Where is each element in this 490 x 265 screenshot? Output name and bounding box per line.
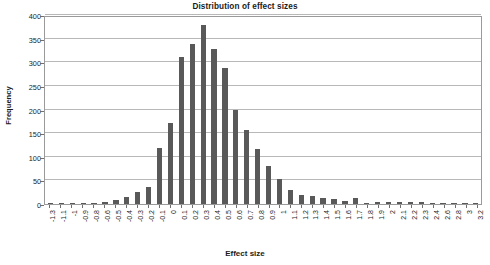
x-tick-mark: [82, 205, 83, 208]
x-tick-mark: [126, 205, 127, 208]
bar[interactable]: [364, 203, 369, 204]
x-tick: 1.2: [296, 207, 307, 247]
bar-slot: [394, 17, 405, 204]
y-tick-label: 400: [5, 12, 41, 21]
plot-area: [44, 16, 482, 205]
bar[interactable]: [211, 49, 216, 204]
bar[interactable]: [320, 198, 325, 204]
bar[interactable]: [288, 190, 293, 204]
bar[interactable]: [135, 192, 140, 204]
x-tick: -0.4: [121, 207, 132, 247]
bar[interactable]: [70, 203, 75, 204]
x-tick-mark: [214, 205, 215, 208]
x-tick: 0: [164, 207, 175, 247]
x-tick-mark: [148, 205, 149, 208]
bar[interactable]: [146, 187, 151, 204]
bar[interactable]: [157, 148, 162, 204]
bar-slot: [78, 17, 89, 204]
x-tick: 0.2: [186, 207, 197, 247]
bar-slot: [263, 17, 274, 204]
x-tick: 1.3: [307, 207, 318, 247]
x-tick-mark: [115, 205, 116, 208]
bar[interactable]: [179, 57, 184, 204]
x-tick: -1.3: [44, 207, 55, 247]
y-tick-mark: [40, 205, 44, 206]
x-tick-mark: [301, 205, 302, 208]
x-tick-mark: [477, 205, 478, 208]
bar[interactable]: [331, 199, 336, 204]
x-tick-mark: [389, 205, 390, 208]
bar-slot: [241, 17, 252, 204]
bars-layer: [45, 17, 481, 204]
bar-slot: [318, 17, 329, 204]
x-tick-mark: [367, 205, 368, 208]
bar[interactable]: [408, 202, 413, 204]
bar[interactable]: [201, 25, 206, 204]
x-tick: 1: [274, 207, 285, 247]
bar-slot: [165, 17, 176, 204]
x-tick: 3.2: [471, 207, 482, 247]
bar[interactable]: [430, 203, 435, 204]
x-tick: 2.1: [395, 207, 406, 247]
bar[interactable]: [102, 202, 107, 204]
bar[interactable]: [244, 130, 249, 204]
x-tick: 0.7: [241, 207, 252, 247]
bar-slot: [329, 17, 340, 204]
bar[interactable]: [113, 200, 118, 204]
bar[interactable]: [277, 179, 282, 204]
x-tick-mark: [411, 205, 412, 208]
bar[interactable]: [266, 166, 271, 204]
chart-figure: Distribution of effect sizes Frequency 0…: [0, 0, 490, 265]
bar[interactable]: [124, 197, 129, 204]
bar[interactable]: [397, 202, 402, 204]
x-tick-mark: [422, 205, 423, 208]
bar[interactable]: [473, 203, 478, 204]
x-tick-mark: [334, 205, 335, 208]
x-tick: 0.9: [263, 207, 274, 247]
x-tick: 0.3: [197, 207, 208, 247]
bar-slot: [132, 17, 143, 204]
x-tick-mark: [400, 205, 401, 208]
bar[interactable]: [451, 203, 456, 204]
x-tick: -0.1: [154, 207, 165, 247]
bar[interactable]: [91, 203, 96, 204]
x-tick-mark: [323, 205, 324, 208]
y-tick-label: 150: [5, 130, 41, 139]
x-tick-mark: [466, 205, 467, 208]
y-tick-label: 200: [5, 106, 41, 115]
bar[interactable]: [48, 203, 53, 204]
bar[interactable]: [59, 203, 64, 204]
bar[interactable]: [299, 195, 304, 204]
x-tick-mark: [258, 205, 259, 208]
x-tick: 1.5: [329, 207, 340, 247]
bar[interactable]: [81, 203, 86, 204]
bar[interactable]: [190, 44, 195, 204]
bar[interactable]: [342, 201, 347, 204]
bar[interactable]: [353, 198, 358, 204]
bar-slot: [372, 17, 383, 204]
x-tick-mark: [279, 205, 280, 208]
bar[interactable]: [233, 110, 238, 205]
bar[interactable]: [462, 203, 467, 204]
bar[interactable]: [222, 68, 227, 204]
x-tick: 2.2: [405, 207, 416, 247]
bar-slot: [187, 17, 198, 204]
bar[interactable]: [168, 123, 173, 204]
bar-slot: [67, 17, 78, 204]
bar[interactable]: [386, 202, 391, 204]
bar[interactable]: [375, 202, 380, 204]
x-tick-mark: [312, 205, 313, 208]
x-tick: -1: [66, 207, 77, 247]
bar-slot: [220, 17, 231, 204]
bar[interactable]: [310, 196, 315, 204]
bar-slot: [438, 17, 449, 204]
x-tick: 0.6: [230, 207, 241, 247]
bar[interactable]: [440, 203, 445, 204]
bar-slot: [361, 17, 372, 204]
bar-slot: [89, 17, 100, 204]
x-axis-title: Effect size: [0, 249, 490, 258]
x-tick: -0.5: [110, 207, 121, 247]
x-tick: -1.1: [55, 207, 66, 247]
bar[interactable]: [419, 202, 424, 204]
bar[interactable]: [255, 149, 260, 204]
